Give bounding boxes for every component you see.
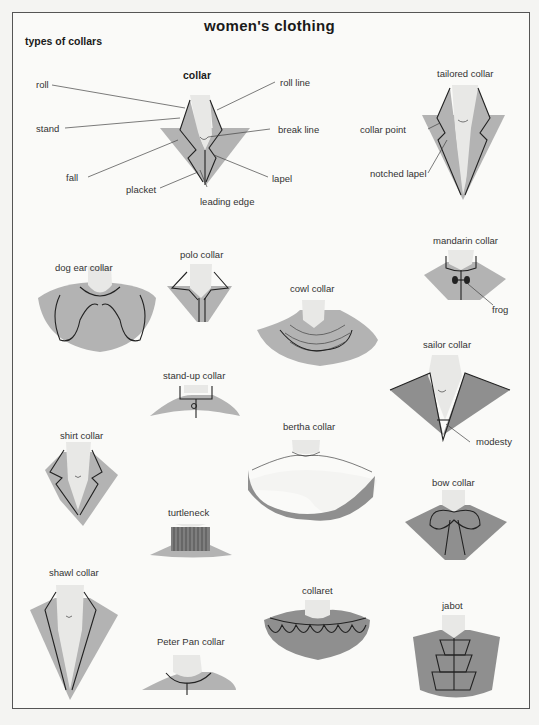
bow-collar-illustration	[405, 490, 507, 560]
jabot-illustration	[413, 615, 500, 698]
tailored-collar-illustration	[422, 85, 505, 200]
label-mandarin-collar: mandarin collar	[433, 235, 498, 246]
sailor-collar-illustration	[390, 355, 510, 442]
collar-diagram-illustration	[52, 82, 275, 188]
label-turtleneck: turtleneck	[168, 507, 209, 518]
collar-illustrations	[0, 0, 539, 725]
label-collar-point: collar point	[360, 124, 406, 135]
polo-collar-illustration	[167, 264, 232, 322]
label-lapel: lapel	[272, 173, 292, 184]
dog-ear-collar-illustration	[38, 266, 156, 352]
label-bow-collar: bow collar	[432, 477, 475, 488]
label-stand: stand	[36, 123, 59, 134]
cowl-collar-illustration	[257, 300, 378, 366]
label-frog: frog	[492, 304, 508, 315]
label-roll: roll	[36, 79, 49, 90]
label-bertha-collar: bertha collar	[283, 421, 335, 432]
bertha-collar-illustration	[248, 440, 377, 521]
label-sailor-collar: sailor collar	[423, 339, 471, 350]
label-modesty: modesty	[476, 436, 512, 447]
label-tailored-collar: tailored collar	[437, 68, 494, 79]
label-cowl-collar: cowl collar	[290, 283, 334, 294]
label-jabot: jabot	[442, 600, 463, 611]
shawl-collar-illustration	[30, 585, 118, 700]
label-stand-up-collar: stand-up collar	[163, 370, 225, 381]
label-roll-line: roll line	[280, 77, 310, 88]
mandarin-collar-illustration	[424, 250, 506, 305]
label-shawl-collar: shawl collar	[49, 567, 99, 578]
shirt-collar-illustration	[45, 442, 118, 526]
label-placket: placket	[126, 184, 156, 195]
label-peter-pan-collar: Peter Pan collar	[157, 636, 225, 647]
section-title: types of collars	[25, 35, 102, 47]
label-notched-lapel: notched lapel	[370, 168, 427, 179]
label-break-line: break line	[278, 124, 319, 135]
collar-heading: collar	[183, 69, 211, 81]
stand-up-collar-illustration	[150, 385, 240, 418]
label-leading-edge: leading edge	[200, 196, 254, 207]
label-collaret: collaret	[302, 585, 333, 596]
collaret-illustration	[264, 600, 370, 660]
page-title: women's clothing	[0, 17, 539, 34]
label-dog-ear-collar: dog ear collar	[55, 262, 113, 273]
peter-pan-collar-illustration	[142, 655, 236, 695]
label-polo-collar: polo collar	[180, 249, 223, 260]
label-shirt-collar: shirt collar	[60, 430, 103, 441]
label-fall: fall	[66, 172, 78, 183]
turtleneck-illustration	[150, 524, 232, 558]
